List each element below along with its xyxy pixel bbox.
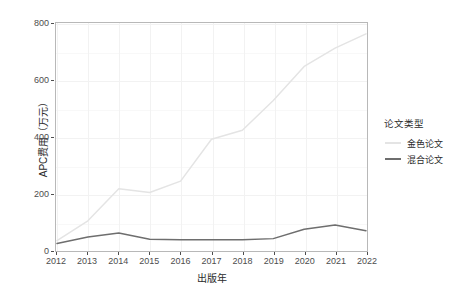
y-tick-label: 600 <box>34 76 49 85</box>
x-tick-mark <box>212 252 213 255</box>
legend-items: 金色论文混合论文 <box>384 136 464 166</box>
y-axis-label-wrapper: APC费用（万元） <box>0 22 20 252</box>
x-tick-mark <box>180 252 181 255</box>
y-tick-mark <box>51 137 54 138</box>
y-tick-label: 400 <box>34 133 49 142</box>
chart-figure: APC费用（万元） 0200400600800 2012201320142015… <box>0 0 467 290</box>
legend-item[interactable]: 金色论文 <box>384 136 464 150</box>
x-tick-mark <box>118 252 119 255</box>
legend-title: 论文类型 <box>384 116 464 130</box>
x-axis-label: 出版年 <box>55 270 368 285</box>
x-tick-mark <box>56 252 57 255</box>
series-line-混合论文 <box>57 225 366 243</box>
y-tick-mark <box>51 80 54 81</box>
legend-item[interactable]: 混合论文 <box>384 152 464 166</box>
legend-key-swatch <box>384 136 402 150</box>
series-line-金色论文 <box>57 34 366 241</box>
series-lines <box>56 23 367 252</box>
y-tick-label: 800 <box>34 19 49 28</box>
x-tick-mark <box>274 252 275 255</box>
x-tick-mark <box>367 252 368 255</box>
y-tick-mark <box>51 251 54 252</box>
y-tick-label: 200 <box>34 190 49 199</box>
legend-label: 金色论文 <box>407 137 443 150</box>
x-tick-mark <box>149 252 150 255</box>
x-tick-mark <box>305 252 306 255</box>
plot-panel <box>55 22 368 252</box>
legend-label: 混合论文 <box>407 153 443 166</box>
x-tick-mark <box>336 252 337 255</box>
x-tick-mark <box>243 252 244 255</box>
legend: 论文类型 金色论文混合论文 <box>384 116 464 168</box>
x-tick-label: 2022 <box>347 257 387 266</box>
legend-key-swatch <box>384 152 402 166</box>
x-tick-mark <box>87 252 88 255</box>
y-tick-mark <box>51 23 54 24</box>
y-tick-mark <box>51 194 54 195</box>
y-tick-label: 0 <box>44 247 49 256</box>
